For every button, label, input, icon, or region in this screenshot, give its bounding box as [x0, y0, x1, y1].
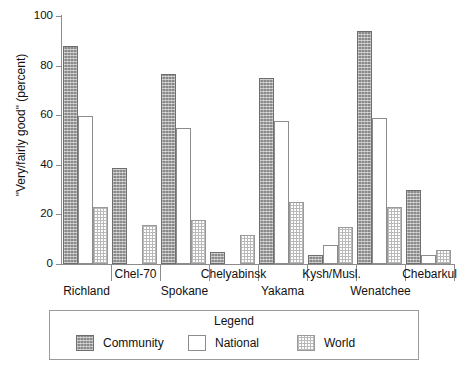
legend-entry: Community — [76, 335, 164, 351]
y-axis-tick: 60 — [0, 115, 62, 116]
bar-world — [142, 225, 157, 264]
legend-label: World — [324, 336, 355, 350]
x-axis-label: Wenatchee — [350, 284, 411, 298]
y-axis-tick: 20 — [0, 214, 62, 215]
bar-group — [356, 16, 405, 264]
bar-national — [372, 118, 387, 264]
y-tick-label: 0 — [47, 256, 53, 271]
x-axis-label: Richland — [63, 284, 110, 298]
bar-community — [259, 78, 274, 264]
y-tick-label: 40 — [40, 157, 53, 172]
plot-area — [62, 16, 454, 264]
x-axis-label: Yakama — [261, 284, 304, 298]
bar-community — [63, 46, 78, 264]
bar-national — [274, 121, 289, 264]
bar-national — [421, 255, 436, 264]
x-axis-label: Spokane — [161, 284, 208, 298]
legend-panel: Legend CommunityNationalWorld — [49, 310, 419, 360]
bar-group — [405, 16, 454, 264]
bar-community — [210, 252, 225, 264]
bar-community — [357, 31, 372, 264]
y-axis-tick: 0 — [0, 264, 62, 265]
legend-label: Community — [103, 336, 164, 350]
y-axis-tick: 40 — [0, 165, 62, 166]
legend-label: National — [215, 336, 259, 350]
bar-national — [176, 128, 191, 264]
bar-world — [436, 250, 451, 264]
y-axis-tick: 80 — [0, 66, 62, 67]
x-axis-tick — [111, 265, 112, 281]
bar-group — [111, 16, 160, 264]
y-axis-tick: 100 — [0, 16, 62, 17]
x-axis-label: Kysh/Musl. — [302, 267, 361, 281]
legend-entry: National — [188, 335, 259, 351]
bar-group — [62, 16, 111, 264]
bar-group — [258, 16, 307, 264]
bar-national — [78, 116, 93, 264]
bar-community — [406, 190, 421, 264]
x-axis-label: Chebarkul — [402, 267, 457, 281]
bar-world — [338, 227, 353, 264]
y-tick-label: 80 — [40, 58, 53, 73]
y-tick-label: 60 — [40, 107, 53, 122]
bar-world — [387, 207, 402, 264]
bar-world — [240, 235, 255, 264]
legend-title: Legend — [50, 314, 418, 328]
x-axis-label: Chel-70 — [114, 267, 156, 281]
x-axis-label: Chelyabinsk — [201, 267, 266, 281]
bar-community — [308, 255, 323, 264]
bar-community — [112, 168, 127, 264]
bar-group — [209, 16, 258, 264]
bar-group — [160, 16, 209, 264]
x-axis-tick — [160, 265, 161, 281]
bar-group — [307, 16, 356, 264]
empty-swatch — [188, 335, 206, 351]
dark-hatched-swatch — [76, 335, 94, 351]
checkered-swatch — [297, 335, 315, 351]
y-tick-label: 100 — [34, 8, 53, 23]
y-tick-label: 20 — [40, 206, 53, 221]
bar-world — [191, 220, 206, 264]
y-tick-mark — [56, 264, 62, 265]
bar-chart-figure: 100806040200 "Very/fairly good" (percent… — [0, 0, 465, 372]
bar-world — [289, 202, 304, 264]
bar-national — [323, 245, 338, 264]
bar-community — [161, 74, 176, 264]
y-axis-title: "Very/fairly good" (percent) — [14, 0, 28, 250]
legend-entry: World — [297, 335, 355, 351]
bar-world — [93, 207, 108, 264]
